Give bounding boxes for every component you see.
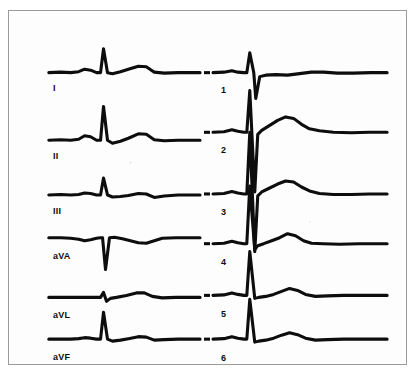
lead-label-2: 2 bbox=[221, 145, 226, 155]
ecg-trace-iii bbox=[49, 178, 200, 197]
lead-label-iii: III bbox=[53, 206, 61, 216]
ecg-trace-1 bbox=[213, 53, 387, 99]
ecg-trace-6 bbox=[213, 299, 387, 342]
paper-speck bbox=[129, 161, 132, 164]
lead-label-6: 6 bbox=[221, 353, 226, 363]
lead-label-1: 1 bbox=[221, 85, 226, 95]
ecg-trace-2 bbox=[213, 91, 387, 192]
ecg-screenshot: IIIIIIaVAaVLaVF123456 bbox=[0, 0, 419, 375]
lead-label-4: 4 bbox=[221, 257, 226, 267]
lead-label-ava: aVA bbox=[53, 251, 70, 261]
ecg-trace-avl bbox=[49, 292, 200, 301]
ecg-trace-ii bbox=[49, 106, 200, 143]
ecg-trace-ava bbox=[49, 237, 200, 269]
paper-speck bbox=[309, 221, 311, 223]
ecg-paper-sheet: IIIIIIaVAaVLaVF123456 bbox=[8, 10, 407, 365]
lead-label-avf: aVF bbox=[53, 352, 70, 362]
lead-label-i: I bbox=[53, 83, 56, 93]
lead-label-3: 3 bbox=[221, 207, 226, 217]
ecg-waveform-group bbox=[49, 49, 387, 342]
lead-label-5: 5 bbox=[221, 309, 226, 319]
lead-label-ii: II bbox=[53, 151, 58, 161]
paper-speck bbox=[79, 271, 81, 273]
lead-label-avl: aVL bbox=[53, 310, 70, 320]
ecg-trace-avf bbox=[49, 312, 200, 341]
ecg-trace-i bbox=[49, 49, 200, 74]
ecg-trace-5 bbox=[213, 252, 387, 299]
ecg-trace-3 bbox=[213, 132, 387, 251]
calibration-tick-group bbox=[204, 73, 210, 339]
